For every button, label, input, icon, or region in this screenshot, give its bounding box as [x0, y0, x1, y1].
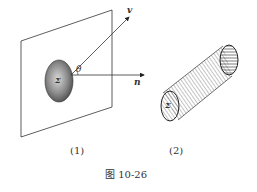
theta-label: θ [76, 64, 81, 74]
panel-2-label: (2) [169, 145, 183, 156]
panel-1 [21, 10, 144, 137]
n-label: n [134, 77, 141, 87]
v-label: v [127, 5, 132, 15]
cylinder-end [220, 45, 238, 75]
sigma-label-1: Σ [55, 75, 61, 85]
panel-2 [161, 45, 238, 121]
sigma-label-2: Σ [165, 100, 171, 110]
figure-canvas [0, 0, 257, 192]
panel-1-label: (1) [70, 145, 84, 156]
figure-caption: 图 10-26 [105, 166, 147, 181]
